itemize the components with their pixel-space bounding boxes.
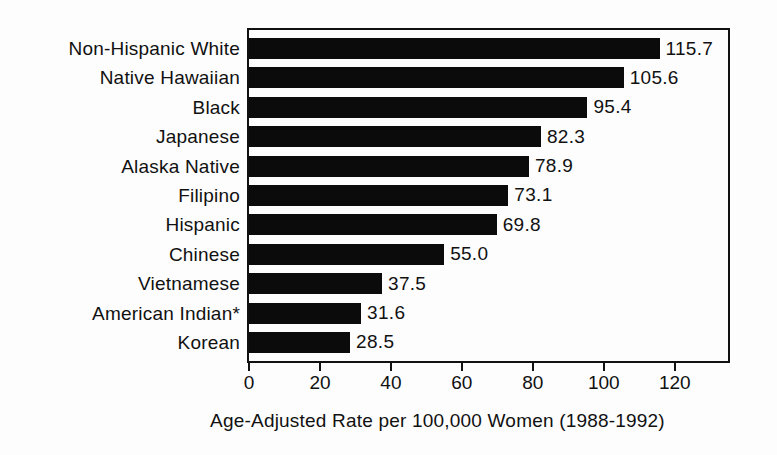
- bar: [249, 126, 541, 147]
- x-axis-tick: [390, 363, 392, 371]
- bar: [249, 332, 350, 353]
- x-axis-tick: [532, 363, 534, 371]
- x-axis-tick-label: 20: [290, 372, 350, 394]
- bar-value-label: 55.0: [450, 243, 488, 265]
- bar-value-label: 115.7: [666, 38, 714, 60]
- x-axis-tick: [248, 363, 250, 371]
- bar: [249, 185, 508, 206]
- x-axis-tick-label: 60: [432, 372, 492, 394]
- bar: [249, 244, 444, 265]
- bar: [249, 97, 587, 118]
- bar-value-label: 82.3: [547, 126, 585, 148]
- category-label: Filipino: [0, 185, 240, 206]
- bar: [249, 67, 624, 88]
- bar: [249, 38, 660, 59]
- x-axis-tick-label: 100: [574, 372, 634, 394]
- category-label: Chinese: [0, 244, 240, 265]
- category-label: Black: [0, 97, 240, 118]
- bar: [249, 156, 529, 177]
- bar-row: 115.7: [249, 38, 728, 59]
- category-label: Korean: [0, 332, 240, 353]
- bar-value-label: 28.5: [356, 331, 394, 353]
- x-axis-tick-label: 80: [503, 372, 563, 394]
- x-axis-tick-label: 40: [361, 372, 421, 394]
- bar-value-label: 37.5: [388, 273, 426, 295]
- bar-row: 105.6: [249, 67, 728, 88]
- bar-row: 78.9: [249, 156, 728, 177]
- x-axis-tick-label: 120: [645, 372, 705, 394]
- bar: [249, 214, 497, 235]
- bars-container: 115.7105.695.482.378.973.169.855.037.531…: [249, 30, 728, 361]
- category-label: Native Hawaiian: [0, 67, 240, 88]
- bar-row: 28.5: [249, 332, 728, 353]
- bar-row: 95.4: [249, 97, 728, 118]
- bar-value-label: 78.9: [535, 155, 573, 177]
- x-axis-tick: [461, 363, 463, 371]
- bar-row: 69.8: [249, 214, 728, 235]
- bar-row: 37.5: [249, 273, 728, 294]
- category-label: Hispanic: [0, 214, 240, 235]
- x-axis-label: Age-Adjusted Rate per 100,000 Women (198…: [100, 410, 775, 432]
- bar-chart-figure: Non-Hispanic WhiteNative HawaiianBlackJa…: [0, 0, 777, 455]
- x-axis-tick: [319, 363, 321, 371]
- bar-row: 82.3: [249, 126, 728, 147]
- bar-value-label: 69.8: [503, 214, 541, 236]
- bar-value-label: 95.4: [593, 96, 631, 118]
- plot-area: 115.7105.695.482.378.973.169.855.037.531…: [247, 28, 730, 363]
- bar-value-label: 73.1: [514, 184, 552, 206]
- category-labels: Non-Hispanic WhiteNative HawaiianBlackJa…: [0, 30, 240, 361]
- category-label: Non-Hispanic White: [0, 38, 240, 59]
- category-label: Japanese: [0, 126, 240, 147]
- bar-row: 55.0: [249, 244, 728, 265]
- x-axis-tick-label: 0: [219, 372, 279, 394]
- category-label: Alaska Native: [0, 156, 240, 177]
- bar-row: 73.1: [249, 185, 728, 206]
- x-axis-tick: [603, 363, 605, 371]
- bar: [249, 303, 361, 324]
- bar-value-label: 105.6: [630, 67, 679, 89]
- x-axis-tick: [674, 363, 676, 371]
- category-label: Vietnamese: [0, 273, 240, 294]
- bar-value-label: 31.6: [367, 302, 405, 324]
- bar: [249, 273, 382, 294]
- bar-row: 31.6: [249, 303, 728, 324]
- category-label: American Indian*: [0, 303, 240, 324]
